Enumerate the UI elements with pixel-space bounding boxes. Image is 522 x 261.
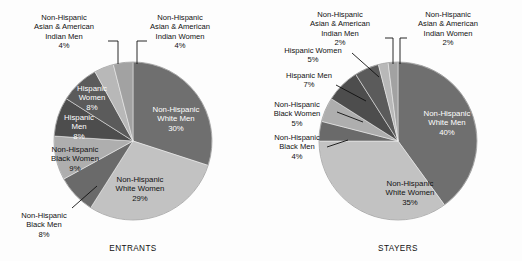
chart-caption-undefined: STAYERS (378, 244, 418, 253)
chart-caption-undefined: ENTRANTS (109, 244, 156, 253)
slice-label-stayers-hispanic-men: Hispanic Men7% (286, 71, 332, 89)
leader-line-non-hispanic-asian-and-american-indian-women (137, 41, 147, 64)
leader-line-non-hispanic-asian-and-american-indian-men (108, 41, 118, 64)
pie-undefined: Non-HispanicWhite Men30%Non-HispanicWhit… (21, 13, 212, 253)
leader-line-non-hispanic-asian-and-american-indian-men (385, 38, 393, 64)
pie-chart-figure: Non-HispanicWhite Men30%Non-HispanicWhit… (0, 0, 522, 261)
pie-undefined: Non-HispanicWhite Men40%Non-HispanicWhit… (274, 10, 478, 253)
leader-line-non-hispanic-asian-and-american-indian-women (400, 38, 407, 64)
figure-canvas: Non-HispanicWhite Men30%Non-HispanicWhit… (0, 0, 522, 261)
slice-label-stayers-non-hispanic-asian-and-american-indian-men: Non-HispanicAsian & AmericanIndian Men2% (310, 10, 370, 47)
slice-label-entrants-non-hispanic-asian-and-american-indian-women: Non-HispanicAsian & AmericanIndian Women… (150, 13, 210, 50)
slice-label-stayers-non-hispanic-asian-and-american-indian-women: Non-HispanicAsian & AmericanIndian Women… (418, 10, 478, 47)
slice-label-entrants-non-hispanic-asian-and-american-indian-men: Non-HispanicAsian & AmericanIndian Men4% (34, 13, 94, 50)
slice-label-stayers-non-hispanic-black-men: Non-HispanicBlack Men4% (274, 133, 320, 161)
slice-label-stayers-non-hispanic-black-women: Non-HispanicBlack Women5% (274, 100, 321, 128)
slice-label-stayers-hispanic-women: Hispanic Women5% (284, 46, 341, 64)
slice-label-entrants-non-hispanic-black-men: Non-HispanicBlack Men8% (21, 211, 67, 239)
